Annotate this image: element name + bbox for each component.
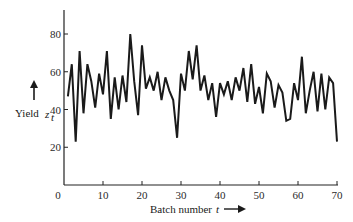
x-axis-label: Batch number t (150, 203, 246, 215)
y-axis-word: Yield (15, 107, 39, 119)
y-ticks: 20406080 (50, 28, 68, 153)
x-tick-label: 40 (215, 189, 227, 201)
x-tick-label: 20 (137, 189, 149, 201)
x-axis-symbol: t (216, 203, 220, 215)
x-ticks: 010203040506070 (55, 181, 343, 201)
x-tick-label: 70 (332, 189, 344, 201)
y-axis-symbol: z (44, 108, 50, 120)
x-tick-label: 10 (98, 189, 110, 201)
right-arrow-icon (238, 205, 246, 213)
x-tick-label: 30 (176, 189, 188, 201)
y-tick-label: 60 (50, 66, 62, 78)
x-tick-label: 50 (254, 189, 266, 201)
x-tick-label: 0 (55, 189, 61, 201)
y-axis-label: Yield z t (15, 80, 55, 123)
x-tick-label: 60 (293, 189, 305, 201)
y-tick-label: 80 (50, 28, 62, 40)
yield-time-series-chart: 20406080 010203040506070 Yield z t Batch… (0, 0, 353, 222)
y-tick-label: 20 (50, 141, 62, 153)
yield-series-line (68, 34, 337, 142)
x-axis-text: Batch number (150, 203, 212, 215)
up-arrow-icon (30, 80, 38, 88)
